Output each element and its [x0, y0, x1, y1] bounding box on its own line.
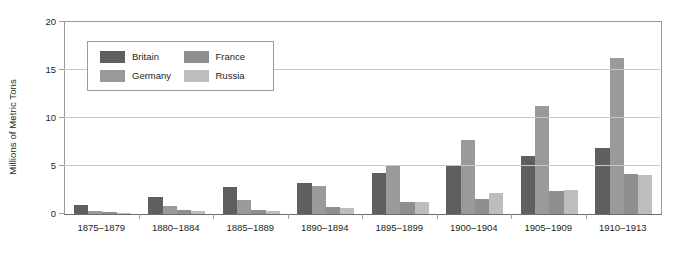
- bar-group-bars: [372, 22, 429, 214]
- bar-russia: [340, 208, 354, 214]
- bar-group-bars: [446, 22, 503, 214]
- bar-group: [587, 22, 662, 214]
- x-axis-tick-label: 1905–1909: [511, 222, 586, 233]
- y-axis-tick-mark: [59, 69, 64, 70]
- y-axis-tick-mark: [59, 213, 64, 214]
- legend-item-britain: Britain: [100, 51, 180, 63]
- y-axis-tick-label: 10: [16, 112, 56, 123]
- bar-britain: [446, 166, 460, 214]
- bar-germany: [312, 186, 326, 214]
- bar-russia: [117, 213, 131, 214]
- x-axis-tick-label: 1910–1913: [586, 222, 661, 233]
- bar-germany: [386, 165, 400, 214]
- chart-legend: Britain France Germany Russia: [87, 41, 274, 91]
- x-axis-tick-mark: [362, 214, 363, 219]
- bar-russia: [489, 193, 503, 214]
- bar-france: [177, 210, 191, 214]
- bar-britain: [297, 183, 311, 214]
- y-axis-tick-label: 20: [16, 16, 56, 27]
- y-axis-tick-label: 15: [16, 64, 56, 75]
- bar-germany: [610, 58, 624, 214]
- x-axis-tick-label: 1890–1894: [288, 222, 363, 233]
- bar-france: [549, 191, 563, 214]
- steel-production-bar-chart: Millions of Metric Tons 05101520 1875–18…: [0, 0, 674, 254]
- x-axis-tick-mark: [139, 214, 140, 219]
- bar-russia: [191, 211, 205, 214]
- x-axis-tick-mark: [511, 214, 512, 219]
- legend-swatch-russia: [184, 70, 209, 82]
- legend-label-france: France: [216, 51, 246, 62]
- bar-group: [363, 22, 438, 214]
- bar-russia: [638, 175, 652, 214]
- y-axis-tick-mark: [59, 21, 64, 22]
- gridline: [64, 117, 660, 118]
- bar-russia: [564, 190, 578, 214]
- bar-britain: [595, 148, 609, 214]
- x-axis-tick-mark: [213, 214, 214, 219]
- bar-germany: [163, 206, 177, 214]
- legend-item-germany: Germany: [100, 70, 180, 82]
- bar-france: [326, 207, 340, 214]
- bar-britain: [372, 173, 386, 214]
- legend-swatch-britain: [100, 51, 125, 63]
- bar-germany: [461, 140, 475, 214]
- x-axis-tick-label: 1895–1899: [362, 222, 437, 233]
- bar-france: [624, 174, 638, 214]
- bar-group: [512, 22, 587, 214]
- legend-label-russia: Russia: [216, 70, 245, 81]
- x-axis-tick-label: 1885–1889: [213, 222, 288, 233]
- bar-group: [438, 22, 513, 214]
- y-axis-tick-mark: [59, 117, 64, 118]
- x-axis-tick-label: 1875–1879: [64, 222, 139, 233]
- bar-group-bars: [521, 22, 578, 214]
- bar-germany: [88, 211, 102, 214]
- bar-france: [102, 212, 116, 214]
- legend-swatch-germany: [100, 70, 125, 82]
- bar-germany: [535, 106, 549, 214]
- x-axis-tick-label: 1900–1904: [437, 222, 512, 233]
- legend-swatch-france: [184, 51, 209, 63]
- bar-france: [475, 199, 489, 214]
- y-axis-tick-mark: [59, 165, 64, 166]
- bar-russia: [266, 211, 280, 214]
- bar-britain: [74, 205, 88, 214]
- bar-britain: [223, 187, 237, 214]
- y-axis-tick-label: 0: [16, 208, 56, 219]
- legend-item-france: France: [184, 51, 264, 63]
- legend-label-germany: Germany: [132, 70, 171, 81]
- y-axis-tick-label: 5: [16, 160, 56, 171]
- x-axis-tick-mark: [288, 214, 289, 219]
- y-axis-title: Millions of Metric Tons: [3, 20, 23, 234]
- bar-britain: [148, 197, 162, 214]
- legend-item-russia: Russia: [184, 70, 264, 82]
- legend-label-britain: Britain: [132, 51, 159, 62]
- bar-france: [400, 202, 414, 214]
- bar-germany: [237, 200, 251, 214]
- bar-group-bars: [297, 22, 354, 214]
- gridline: [64, 165, 660, 166]
- x-axis-tick-mark: [586, 214, 587, 219]
- x-axis-tick-label: 1880–1884: [139, 222, 214, 233]
- x-axis-tick-mark: [437, 214, 438, 219]
- bar-group-bars: [595, 22, 652, 214]
- bar-group: [289, 22, 364, 214]
- bar-russia: [415, 202, 429, 214]
- bar-france: [251, 210, 265, 214]
- x-axis-labels: 1875–18791880–18841885–18891890–18941895…: [64, 222, 660, 233]
